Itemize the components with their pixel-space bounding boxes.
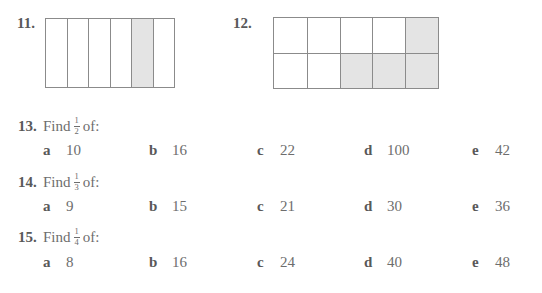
option-15d: d40 (364, 253, 402, 271)
strip-cell-3 (88, 19, 110, 87)
strip-cell-6 (153, 19, 175, 87)
strip-cell-5 (131, 19, 153, 87)
worksheet-page: 11. 12. 13.Find12of: a10 b16 c22 d100 e4… (0, 0, 542, 293)
question-13-of-label: of: (83, 118, 100, 134)
option-value: 9 (66, 198, 74, 214)
question-13-prompt: 13.Find12of: (18, 116, 99, 137)
option-14e: e36 (472, 197, 510, 215)
option-value: 40 (387, 254, 402, 270)
option-letter: e (472, 141, 495, 159)
option-value: 30 (387, 198, 402, 214)
option-value: 16 (172, 142, 187, 158)
grid-cell-r1c4 (372, 18, 405, 53)
fraction-numerator: 1 (74, 116, 80, 126)
grid-cell-r2c3 (340, 53, 373, 88)
grid-cell-r1c2 (307, 18, 340, 53)
grid-cell-r1c3 (340, 18, 373, 53)
question-14-number: 14. (18, 172, 43, 192)
option-letter: a (43, 141, 66, 159)
fraction-denominator: 2 (74, 126, 80, 137)
strip-cell-4 (110, 19, 132, 87)
question-14-fraction: 13 (74, 172, 80, 193)
option-14d: d30 (364, 197, 402, 215)
question-14-prompt: 14.Find13of: (18, 172, 99, 193)
question-15-options: a8 b16 c24 d40 e48 (0, 253, 542, 271)
strip-cell-1 (46, 19, 67, 87)
option-13d: d100 (364, 141, 410, 159)
option-15a: a8 (43, 253, 74, 271)
grid-cell-r1c1 (274, 18, 307, 53)
option-value: 24 (280, 254, 295, 270)
strip-cell-2 (67, 19, 89, 87)
option-letter: d (364, 141, 387, 159)
grid-cell-r2c2 (307, 53, 340, 88)
figure-12-number: 12. (233, 16, 252, 31)
option-14b: b15 (149, 197, 187, 215)
option-letter: a (43, 253, 66, 271)
figure-12-fraction-grid (273, 17, 439, 89)
option-value: 8 (66, 254, 74, 270)
grid-cell-r2c4 (372, 53, 405, 88)
option-letter: c (257, 141, 280, 159)
question-15-of-label: of: (83, 229, 100, 245)
question-13-options: a10 b16 c22 d100 e42 (0, 141, 542, 159)
option-15c: c24 (257, 253, 295, 271)
fraction-numerator: 1 (74, 227, 80, 237)
question-13-number: 13. (18, 116, 43, 136)
option-letter: a (43, 197, 66, 215)
option-letter: d (364, 197, 387, 215)
fraction-numerator: 1 (74, 172, 80, 182)
grid-cell-r2c1 (274, 53, 307, 88)
option-value: 16 (172, 254, 187, 270)
option-value: 21 (280, 198, 295, 214)
question-14-find-label: Find (43, 174, 71, 190)
question-15-fraction: 14 (74, 227, 80, 248)
option-letter: c (257, 197, 280, 215)
question-14-options: a9 b15 c21 d30 e36 (0, 197, 542, 215)
option-letter: d (364, 253, 387, 271)
option-value: 10 (66, 142, 81, 158)
option-letter: b (149, 253, 172, 271)
option-value: 100 (387, 142, 410, 158)
option-letter: b (149, 141, 172, 159)
option-13b: b16 (149, 141, 187, 159)
option-letter: e (472, 197, 495, 215)
option-letter: e (472, 253, 495, 271)
question-13-fraction: 12 (74, 116, 80, 137)
fraction-denominator: 4 (74, 237, 80, 248)
option-value: 22 (280, 142, 295, 158)
option-13a: a10 (43, 141, 81, 159)
option-value: 15 (172, 198, 187, 214)
question-15-find-label: Find (43, 229, 71, 245)
question-15-prompt: 15.Find14of: (18, 227, 99, 248)
question-13-find-label: Find (43, 118, 71, 134)
option-letter: b (149, 197, 172, 215)
question-14-of-label: of: (83, 174, 100, 190)
grid-cell-r1c5 (405, 18, 438, 53)
option-13c: c22 (257, 141, 295, 159)
question-15-number: 15. (18, 227, 43, 247)
grid-cell-r2c5 (405, 53, 438, 88)
figure-11-number: 11. (17, 16, 35, 31)
option-15b: b16 (149, 253, 187, 271)
option-value: 36 (495, 198, 510, 214)
figure-11-fraction-strip (45, 18, 175, 88)
fraction-denominator: 3 (74, 182, 80, 193)
option-14c: c21 (257, 197, 295, 215)
option-value: 42 (495, 142, 510, 158)
option-value: 48 (495, 254, 510, 270)
option-14a: a9 (43, 197, 74, 215)
option-15e: e48 (472, 253, 510, 271)
option-13e: e42 (472, 141, 510, 159)
option-letter: c (257, 253, 280, 271)
